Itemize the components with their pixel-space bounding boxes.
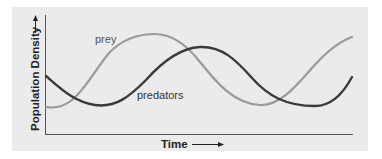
x-axis-label: Time — [161, 138, 188, 150]
prey-curve — [46, 34, 352, 107]
y-axis-label: Population Density — [29, 26, 41, 131]
chart-svg: prey predators Time Population Density — [0, 0, 382, 159]
x-axis-arrow-icon — [192, 142, 224, 147]
predators-label: predators — [137, 89, 184, 101]
prey-label: prey — [95, 33, 117, 45]
